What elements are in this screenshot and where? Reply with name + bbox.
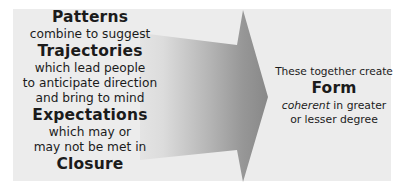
left-line-bring-to-mind: and bring to mind [10, 91, 170, 106]
left-line-which-may-or: which may or [10, 125, 170, 140]
left-text-column: Patterns combine to suggest Trajectories… [10, 8, 170, 174]
right-line-tail-1: coherent in greater [272, 99, 396, 113]
left-line-trajectories: Trajectories [10, 42, 170, 61]
left-line-anticipate-direction: to anticipate direction [10, 76, 170, 91]
left-line-patterns: Patterns [10, 8, 170, 27]
right-text-column: These together create Form coherent in g… [272, 64, 396, 127]
left-line-closure: Closure [10, 155, 170, 174]
right-tail-italic: coherent [282, 99, 330, 112]
right-line-lead: These together create [272, 64, 396, 78]
left-line-may-not-be-met-in: may not be met in [10, 140, 170, 155]
left-line-which-lead-people: which lead people [10, 61, 170, 76]
diagram-canvas: Patterns combine to suggest Trajectories… [0, 0, 406, 194]
left-line-combine-to-suggest: combine to suggest [10, 27, 170, 42]
left-line-expectations: Expectations [10, 106, 170, 125]
right-line-tail-2: or lesser degree [272, 113, 396, 127]
right-tail-rest: in greater [330, 99, 386, 112]
right-line-form: Form [272, 78, 396, 99]
